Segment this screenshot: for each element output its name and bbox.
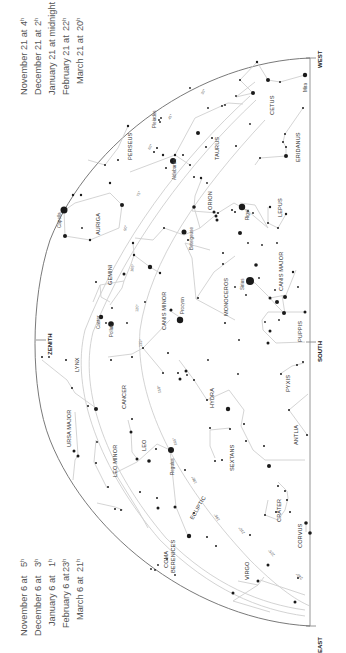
svg-text:1h: 1h [47,559,57,567]
star-chart: CETUS ERIDANUS TAURUS PERSEUS AURIGA ORI… [0,0,346,653]
label-berenices: BERENICES [170,540,176,573]
label-leo: LEO [141,439,147,451]
label-canis-major: CANIS MAJOR [278,252,284,291]
constellation-lines [42,62,308,612]
svg-text:75°: 75° [136,190,142,197]
svg-text:30°: 30° [200,88,207,95]
east-label: EAST [317,637,323,653]
label-pollux: Pollux [109,324,114,337]
label-puppis: PUPPIS [297,321,303,342]
time-row: November 21 at [19,29,29,95]
label-regulus: Regulus [170,457,175,475]
label-pleiades: Pleiades [152,110,157,128]
svg-text:23h: 23h [61,559,71,572]
time-row: March 21 at [75,35,85,84]
constellation-labels: CETUS ERIDANUS TAURUS PERSEUS AURIGA ORI… [66,95,303,580]
label-procyon: Procyon [180,297,185,314]
time-row: November 6 at [19,575,29,636]
label-sirius: Sirius [240,278,245,290]
svg-text:4h: 4h [19,18,29,26]
svg-text:195°: 195° [213,512,221,521]
label-antlia: ANTLIA [293,425,299,445]
svg-text:3h: 3h [33,559,43,567]
celestial-equator [140,120,310,606]
label-cetus: CETUS [269,95,275,115]
time-row: January 6 at [47,575,57,626]
time-row: December 21 at [33,29,43,95]
label-sextans: SEXTANS [229,444,235,471]
label-betelgeuse: Betelgeuse [189,227,194,250]
label-rigel: Rigel [245,210,250,220]
svg-text:180°: 180° [191,475,198,484]
label-monoceros: MONOCEROS [223,278,229,316]
time-row: February 6 at [61,573,71,628]
label-orion: ORION [207,191,213,210]
svg-text:5h: 5h [19,559,29,567]
label-perseus: PERSEUS [127,132,133,160]
label-gemini: GEMINI [107,264,113,285]
label-corvus: CORVUS [297,523,303,548]
label-taurus: TAURUS [214,137,220,160]
svg-text:225°: 225° [267,548,275,557]
label-eridanus: ERIDANUS [295,132,301,162]
label-leo-minor: LEO MINOR [112,445,118,477]
time-row: March 6 at [75,576,85,620]
label-capella: Capella [57,212,62,228]
label-virgo: VIRGO [244,561,250,580]
svg-text:165°: 165° [172,437,178,446]
svg-text:240°: 240° [295,571,304,580]
time-row: February 21 at [61,35,71,95]
svg-text:120°: 120° [135,303,140,312]
label-canis-minor: CANIS MINOR [161,292,167,330]
label-hydra: HYDRA [209,388,215,408]
svg-text:135°: 135° [139,339,143,347]
svg-text:90°: 90° [123,224,128,231]
svg-text:210°: 210° [238,526,246,535]
svg-text:105°: 105° [130,263,135,272]
svg-text:60°: 60° [147,143,154,150]
label-crater: CRATER [276,499,282,522]
svg-text:22h: 22h [61,18,71,31]
time-table-east: November 6 at 5h December 6 at 3h Januar… [19,559,85,636]
time-row: January 21 at midnight [47,2,57,95]
label-cancer: CANCER [121,385,127,409]
label-coma: COMA [163,551,169,568]
label-lynx: LYNX [74,357,80,372]
label-pyxis: PYXIS [285,375,291,392]
zenith-label: ZENITH [47,333,53,355]
svg-text:45°: 45° [167,113,174,120]
label-castor: Castor [96,315,101,329]
label-mira: Mira [303,83,308,92]
south-label: SOUTH [317,341,323,362]
time-row: December 6 at [33,575,43,636]
label-lepus: LEPUS [277,198,283,217]
svg-text:150°: 150° [157,385,162,394]
svg-text:21h: 21h [75,559,85,572]
svg-text:20h: 20h [75,18,85,31]
svg-text:2h: 2h [33,18,43,26]
stars [41,61,312,604]
time-table-west: November 21 at 4h December 21 at 2h Janu… [19,2,85,95]
west-label: WEST [317,50,323,68]
label-ursa-major: URSA MAJOR [66,410,72,447]
label-auriga: AURIGA [95,213,101,235]
label-aldebaran: Aldebaran [172,159,177,180]
label-ecliptic: ECLIPTIC [189,495,207,521]
